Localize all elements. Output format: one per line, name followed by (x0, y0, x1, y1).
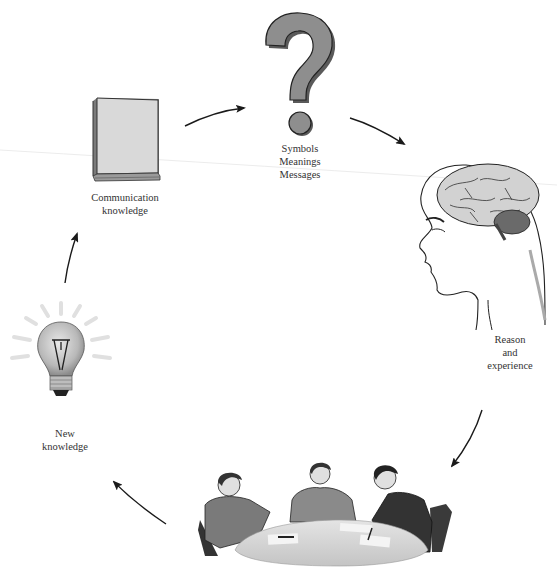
label-line: Meanings (250, 155, 350, 168)
label-line: knowledge (70, 204, 180, 217)
arrow-discussion-to-new-knowledge (114, 482, 166, 524)
label-reason: Reason and experience (470, 333, 550, 372)
label-line: and (470, 346, 550, 359)
label-new-knowledge: New knowledge (20, 427, 110, 453)
label-line: Messages (250, 168, 350, 181)
arrow-reason-to-discussion (452, 410, 482, 466)
label-line: Symbols (250, 142, 350, 155)
light-bulb-icon (12, 303, 110, 396)
arrow-communication-to-symbols (185, 108, 244, 126)
arrow-symbols-to-reason (350, 118, 404, 144)
label-line: Reason (470, 333, 550, 346)
label-line: experience (470, 359, 550, 372)
question-mark-icon (266, 13, 335, 136)
arrow-new-knowledge-to-communication (65, 234, 77, 283)
head-brain-icon (420, 164, 545, 330)
label-line: knowledge (20, 440, 110, 453)
label-line: Communication (70, 191, 180, 204)
book-icon (93, 98, 160, 181)
knowledge-cycle-diagram (0, 0, 557, 579)
label-line: New (20, 427, 110, 440)
label-symbols: Symbols Meanings Messages (250, 142, 350, 181)
meeting-table-icon (198, 463, 452, 566)
label-communication-knowledge: Communication knowledge (70, 191, 180, 217)
